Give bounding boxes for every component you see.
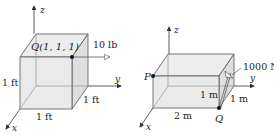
z-axis-label: z <box>39 5 45 15</box>
height-dim-label: 1 ft <box>2 77 19 88</box>
point-p-dot <box>151 74 155 78</box>
depth-dim-label: 1 m <box>230 93 248 104</box>
box-figure: z y x P Q 1000 N 1 m 1 m 2 m <box>140 25 274 132</box>
cube-figure: z y x Q(1, 1, 1) 10 lb 1 ft 1 ft 1 ft <box>2 5 121 133</box>
force-label: 10 lb <box>93 39 117 50</box>
x-axis-label: x <box>146 122 151 132</box>
depth-dim-label: 1 ft <box>83 94 100 105</box>
point-q-dot <box>217 106 221 110</box>
point-q-label: Q(1, 1, 1) <box>31 41 79 52</box>
force-label: 1000 N <box>243 61 274 72</box>
point-p-label: P <box>143 71 151 82</box>
cube-front-face <box>20 57 72 109</box>
y-axis-label: y <box>249 73 256 83</box>
point-q-label: Q <box>215 113 223 124</box>
x-axis-label: x <box>12 123 17 133</box>
diagram-canvas: z y x Q(1, 1, 1) 10 lb 1 ft 1 ft 1 ft z … <box>0 0 274 136</box>
height-dim-label: 1 m <box>200 89 218 100</box>
z-axis-label: z <box>173 25 179 35</box>
point-q-dot <box>70 55 74 59</box>
y-axis-label: y <box>114 74 121 84</box>
width-dim-label: 1 ft <box>36 111 53 122</box>
length-dim-label: 2 m <box>174 110 192 121</box>
